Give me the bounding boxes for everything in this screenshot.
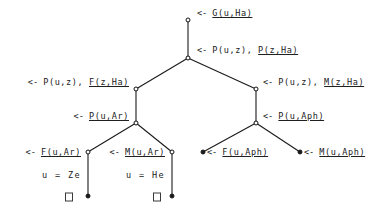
selected-literal: P(u,Ar)	[89, 111, 129, 121]
implication-arrow-icon: <-	[197, 8, 212, 18]
tree-node-n1[interactable]	[186, 56, 191, 61]
selected-literal: M(u,Aph)	[319, 147, 365, 157]
substitution-label-s0: u = Ze	[42, 170, 81, 180]
tree-node-n3[interactable]	[254, 87, 259, 92]
empty-clause-box-icon	[65, 193, 73, 202]
tree-node-n11[interactable]	[170, 194, 175, 199]
implication-arrow-icon: <-	[28, 77, 43, 87]
selected-literal: P(u,Aph)	[278, 111, 324, 121]
goal-label-n2: <- P(u,z), F(z,Ha)	[28, 77, 129, 87]
implication-arrow-icon: <-	[26, 147, 41, 157]
implication-arrow-icon: <-	[304, 147, 319, 157]
tree-node-n5[interactable]	[254, 121, 259, 126]
goal-label-n3: <- P(u,z), M(z,Ha)	[263, 77, 364, 87]
selected-literal: M(u,Ar)	[125, 147, 165, 157]
tree-edge	[188, 58, 256, 89]
goal-label-n4: <- P(u,Ar)	[74, 111, 129, 121]
goal-label-n6: <- F(u,Ar)	[26, 147, 81, 157]
empty-clause-box-icon	[153, 193, 161, 202]
tree-node-n10[interactable]	[86, 194, 91, 199]
literal: P(u,z),	[278, 77, 324, 87]
tree-edge	[136, 58, 188, 89]
selected-literal: F(u,Aph)	[222, 147, 268, 157]
selected-literal: P(z,Ha)	[258, 45, 298, 55]
substitution-label-s1: u = He	[126, 170, 165, 180]
implication-arrow-icon: <-	[74, 111, 89, 121]
goal-label-n0: <- G(u,Ha)	[197, 8, 252, 18]
goal-label-n7: <- M(u,Ar)	[110, 147, 165, 157]
goal-label-n8: <- F(u,Aph)	[207, 147, 268, 157]
goal-label-n9: <- M(u,Aph)	[304, 147, 365, 157]
implication-arrow-icon: <-	[207, 147, 222, 157]
selected-literal: G(u,Ha)	[212, 8, 252, 18]
literal: P(u,z),	[212, 45, 258, 55]
implication-arrow-icon: <-	[197, 45, 212, 55]
tree-node-n7[interactable]	[170, 150, 175, 155]
selected-literal: F(u,Ar)	[41, 147, 81, 157]
tree-node-n8[interactable]	[201, 150, 206, 155]
proof-tree-diagram: <- G(u,Ha)<- P(u,z), P(z,Ha)<- P(u,z), F…	[0, 0, 376, 216]
tree-node-n0[interactable]	[186, 18, 191, 23]
selected-literal: M(z,Ha)	[324, 77, 364, 87]
tree-node-n6[interactable]	[86, 150, 91, 155]
tree-node-n9[interactable]	[298, 150, 303, 155]
tree-node-n2[interactable]	[134, 87, 139, 92]
selected-literal: F(z,Ha)	[89, 77, 129, 87]
goal-label-n5: <- P(u,Aph)	[263, 111, 324, 121]
goal-label-n1: <- P(u,z), P(z,Ha)	[197, 45, 298, 55]
implication-arrow-icon: <-	[263, 111, 278, 121]
tree-edges-layer	[0, 0, 376, 216]
tree-node-n4[interactable]	[134, 121, 139, 126]
literal: P(u,z),	[43, 77, 89, 87]
implication-arrow-icon: <-	[263, 77, 278, 87]
implication-arrow-icon: <-	[110, 147, 125, 157]
